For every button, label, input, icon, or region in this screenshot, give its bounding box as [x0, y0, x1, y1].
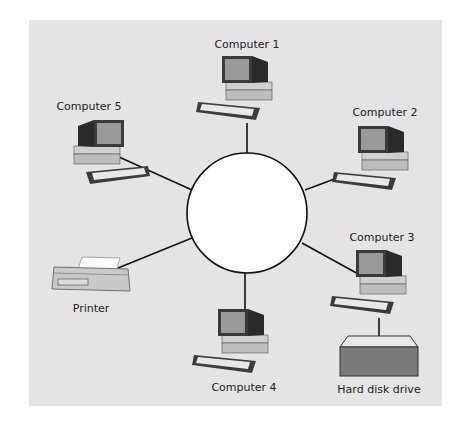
label-printer: Printer [73, 302, 110, 315]
computer-icon-1 [196, 52, 296, 124]
computer-icon-2 [332, 122, 432, 194]
label-computer-1: Computer 1 [214, 38, 279, 51]
computer-icon-3 [330, 246, 430, 318]
label-computer-3: Computer 3 [349, 231, 414, 244]
label-hard-disk-drive: Hard disk drive [337, 383, 420, 396]
label-computer-4: Computer 4 [211, 381, 276, 394]
network-hub [187, 153, 307, 273]
computer-icon-5 [50, 116, 150, 188]
hard-disk-drive-icon [338, 335, 420, 377]
printer-icon [50, 255, 135, 297]
label-computer-5: Computer 5 [56, 100, 121, 113]
label-computer-2: Computer 2 [352, 106, 417, 119]
computer-icon-4 [192, 305, 292, 377]
